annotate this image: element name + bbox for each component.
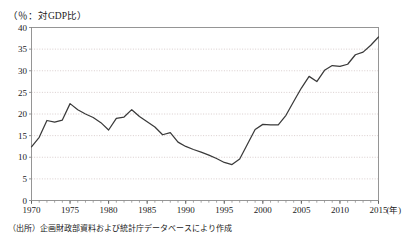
x-axis-unit-label: (年) xyxy=(387,205,402,215)
y-tick-label: 35 xyxy=(18,44,28,54)
x-tick-labels-group: 1970197519801985199019952000200520102015 xyxy=(23,205,389,215)
x-tick-label: 1980 xyxy=(100,205,119,215)
y-tick-label: 5 xyxy=(23,174,28,184)
x-axis-unit-label-group: (年) xyxy=(387,205,402,215)
x-tick-label: 2005 xyxy=(292,205,311,215)
y-tick-labels-group: 0510152025303540 xyxy=(18,23,28,206)
x-major-ticks-group xyxy=(32,201,379,204)
y-tick-label: 40 xyxy=(18,23,28,33)
y-tick-label: 20 xyxy=(18,109,28,119)
x-tick-label: 1985 xyxy=(138,205,157,215)
y-tick-label: 15 xyxy=(18,131,28,141)
line-chart-plot: 0510152025303540 19701975198019851990199… xyxy=(0,0,406,238)
x-tick-label: 2015 xyxy=(370,205,389,215)
y-tick-label: 30 xyxy=(18,66,28,76)
x-tick-label: 1990 xyxy=(177,205,196,215)
y-tick-label: 25 xyxy=(18,88,28,98)
y-tick-label: 10 xyxy=(18,152,28,162)
chart-figure: （％：対GDP比） 0510152025303540 1970197519801… xyxy=(0,0,406,238)
x-tick-label: 2010 xyxy=(331,205,350,215)
source-note: （出所）企画財政部資料および統計庁データベースにより作成 xyxy=(8,222,232,233)
x-tick-label: 1970 xyxy=(23,205,42,215)
x-tick-label: 1975 xyxy=(61,205,80,215)
x-tick-label: 2000 xyxy=(254,205,273,215)
data-series-line xyxy=(32,37,379,165)
series-line xyxy=(32,37,379,165)
x-tick-label: 1995 xyxy=(215,205,234,215)
